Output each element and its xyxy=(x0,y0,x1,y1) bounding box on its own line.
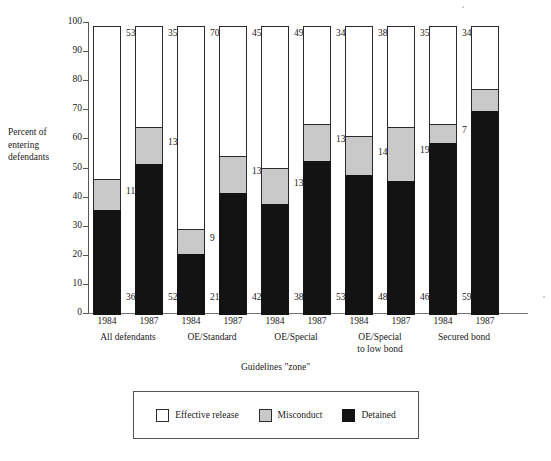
y-axis-tick-label: 100 xyxy=(58,16,82,26)
chart-legend: Effective releaseMisconductDetained xyxy=(133,391,419,439)
bar-segment-detained xyxy=(177,254,205,315)
y-axis-tick-labels: 1009080706050403020100 xyxy=(52,22,82,314)
legend-swatch-detained-icon xyxy=(342,409,355,422)
bar-segment-misconduct xyxy=(135,127,163,165)
y-axis-tick-label: 60 xyxy=(58,132,82,142)
bar-segment-misconduct xyxy=(429,124,457,144)
y-axis-tick xyxy=(83,109,89,110)
bar-segment-release xyxy=(429,26,457,125)
bar-segment-release xyxy=(387,26,415,128)
x-axis-title: Guidelines "zone" xyxy=(0,362,551,372)
bar-secured-bond-1987[interactable] xyxy=(471,26,499,314)
bar-oe-special-to-low-bond-1987[interactable] xyxy=(387,26,415,314)
bar-segment-misconduct xyxy=(177,229,205,255)
bar-segment-detained xyxy=(303,161,331,315)
y-axis-tick xyxy=(83,255,89,256)
x-axis-year-label: 1984 xyxy=(87,316,127,326)
y-axis-tick xyxy=(83,22,89,23)
x-axis-year-label: 1984 xyxy=(339,316,379,326)
y-axis-tick xyxy=(83,226,89,227)
bar-segment-misconduct xyxy=(303,124,331,162)
y-axis-tick-label: 70 xyxy=(58,103,82,113)
y-axis-tick-label: 90 xyxy=(58,45,82,55)
legend-item-release[interactable]: Effective release xyxy=(156,409,238,422)
legend-item-misconduct[interactable]: Misconduct xyxy=(259,409,323,422)
x-axis-year-label: 1987 xyxy=(381,316,421,326)
bar-segment-misconduct xyxy=(345,136,373,177)
x-axis-labels: 1984198719841987198419871984198719841987… xyxy=(88,316,528,356)
bar-segment-misconduct xyxy=(261,168,289,206)
y-axis-tick-label: 30 xyxy=(58,220,82,230)
bar-segment-release xyxy=(303,26,331,125)
x-axis-group-label: Secured bond xyxy=(414,332,514,344)
bar-segment-detained xyxy=(345,175,373,315)
bar-segment-detained xyxy=(219,193,247,315)
y-axis-tick-label: 10 xyxy=(58,278,82,288)
bar-segment-misconduct xyxy=(219,156,247,194)
legend-swatch-misconduct-icon xyxy=(259,409,272,422)
y-axis-tick xyxy=(83,168,89,169)
bar-oe-special-to-low-bond-1984[interactable] xyxy=(345,26,373,314)
bar-oe-standard-1984[interactable] xyxy=(177,26,205,314)
bar-segment-detained xyxy=(135,164,163,315)
legend-item-detained[interactable]: Detained xyxy=(342,409,395,422)
bar-segment-detained xyxy=(261,204,289,315)
y-axis-tick xyxy=(83,313,89,314)
y-axis-tick-label: 0 xyxy=(58,307,82,317)
legend-label: Detained xyxy=(361,410,395,420)
bar-all-defendants-1984[interactable] xyxy=(93,26,121,314)
bar-oe-special-1987[interactable] xyxy=(303,26,331,314)
bar-segment-misconduct xyxy=(93,179,121,211)
bar-oe-standard-1987[interactable] xyxy=(219,26,247,314)
y-axis-tick xyxy=(83,197,89,198)
y-axis-tick xyxy=(83,284,89,285)
bar-all-defendants-1987[interactable] xyxy=(135,26,163,314)
bar-segment-release xyxy=(93,26,121,180)
bar-segment-release xyxy=(177,26,205,230)
y-axis-tick xyxy=(83,80,89,81)
x-axis-group-label-line1: Secured bond xyxy=(414,332,514,344)
bar-segment-release xyxy=(471,26,499,90)
x-axis-group-label-line2: to low bond xyxy=(330,344,430,356)
plot-area: 3611535213352197042134538134953133448143… xyxy=(88,22,528,314)
y-axis-tick-label: 50 xyxy=(58,162,82,172)
bar-segment-release xyxy=(261,26,289,169)
x-axis-year-label: 1987 xyxy=(213,316,253,326)
bar-value-misconduct: 9 xyxy=(210,233,215,243)
x-axis-year-label: 1984 xyxy=(171,316,211,326)
y-axis-tick xyxy=(83,51,89,52)
legend-items: Effective releaseMisconductDetained xyxy=(134,392,418,438)
bar-segment-detained xyxy=(429,143,457,315)
bar-segment-misconduct xyxy=(471,89,499,112)
x-axis-year-label: 1987 xyxy=(465,316,505,326)
bar-segment-release xyxy=(345,26,373,137)
bar-segment-detained xyxy=(93,210,121,315)
bar-segment-detained xyxy=(471,111,499,315)
y-axis-tick-label: 40 xyxy=(58,191,82,201)
y-axis-tick xyxy=(83,138,89,139)
stacked-bar-chart: Percent of entering defendants 100908070… xyxy=(0,0,551,461)
bar-segment-release xyxy=(135,26,163,128)
x-axis-year-label: 1984 xyxy=(255,316,295,326)
x-axis-year-label: 1987 xyxy=(297,316,337,326)
legend-label: Effective release xyxy=(175,410,238,420)
scan-speck xyxy=(543,296,545,298)
x-axis-year-label: 1987 xyxy=(129,316,169,326)
bar-segment-misconduct xyxy=(387,127,415,182)
bar-secured-bond-1984[interactable] xyxy=(429,26,457,314)
y-axis-tick-label: 80 xyxy=(58,74,82,84)
legend-label: Misconduct xyxy=(278,410,323,420)
legend-swatch-release-icon xyxy=(156,409,169,422)
bar-oe-special-1984[interactable] xyxy=(261,26,289,314)
scan-speck xyxy=(462,6,464,8)
bar-segment-detained xyxy=(387,181,415,315)
bar-value-misconduct: 7 xyxy=(462,125,467,135)
x-axis-year-label: 1984 xyxy=(423,316,463,326)
bar-value-misconduct: 11 xyxy=(126,186,135,196)
y-axis-tick-label: 20 xyxy=(58,249,82,259)
bar-segment-release xyxy=(219,26,247,157)
